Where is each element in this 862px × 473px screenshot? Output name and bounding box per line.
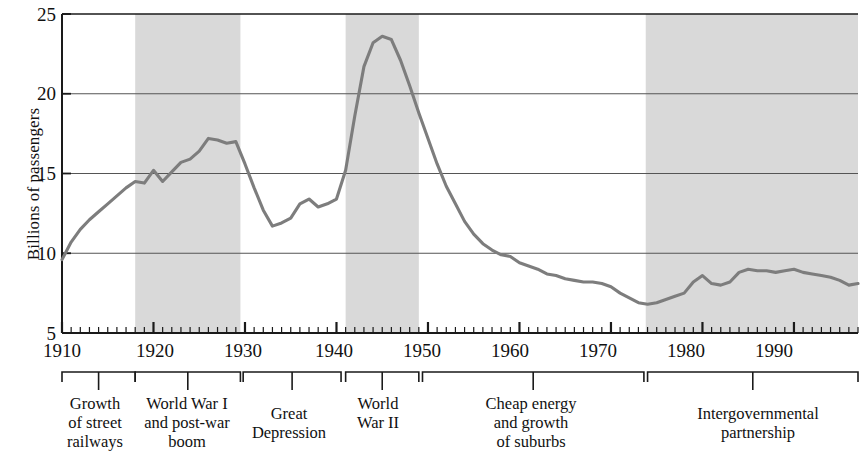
transit-ridership-figure: Billions of passengers 25 20 15 10 5 191… <box>0 0 862 473</box>
chart-canvas <box>0 0 862 473</box>
y-axis-ticks <box>62 14 71 333</box>
era-brackets <box>62 372 858 390</box>
